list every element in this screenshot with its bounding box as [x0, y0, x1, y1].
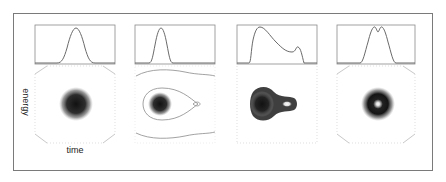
density-ring-4 — [361, 87, 395, 121]
panel-3 — [237, 25, 317, 143]
profile-plot-1 — [35, 25, 115, 64]
density-blob-2 — [148, 92, 172, 116]
profile-plot-2 — [135, 25, 215, 64]
density-blob-1 — [59, 87, 93, 121]
contour-lines-2 — [136, 70, 215, 138]
profile-plot-3 — [237, 25, 317, 64]
profile-plot-4 — [337, 25, 415, 64]
panel-2 — [135, 25, 215, 143]
x-axis-label: time — [60, 145, 90, 155]
panel-1 — [35, 25, 115, 143]
panel-4 — [337, 25, 415, 143]
y-axis-label: energy — [21, 82, 31, 122]
